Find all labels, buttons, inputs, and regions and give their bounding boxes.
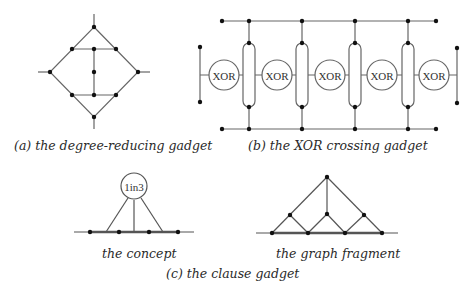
caption-graph-fragment: the graph fragment	[276, 246, 400, 261]
xor-node-label: XOR	[265, 70, 289, 82]
caption-b: (b) the XOR crossing gadget	[248, 138, 428, 153]
xor-node-label: XOR	[422, 70, 446, 82]
xor-node-label: XOR	[212, 70, 236, 82]
figure: XOR XOR XOR XOR XOR 1in3 (a) the degree-…	[0, 0, 472, 290]
clause-graph-fragment	[256, 177, 398, 233]
xor-node-label: XOR	[318, 70, 342, 82]
caption-c: (c) the clause gadget	[166, 266, 299, 281]
1in3-node-label: 1in3	[124, 181, 144, 193]
xor-node-label: XOR	[370, 70, 394, 82]
caption-concept: the concept	[102, 246, 176, 261]
caption-a: (a) the degree-reducing gadget	[14, 138, 212, 153]
